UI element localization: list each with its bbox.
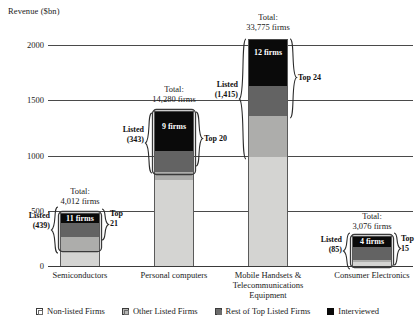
segment-interviewed xyxy=(248,39,288,86)
mobile-handsets-listed-brace xyxy=(238,38,247,160)
x-label-consumer-electronics: Consumer Electronics xyxy=(314,270,415,280)
legend-swatch-rest-of-top-listed-icon xyxy=(215,308,222,315)
consumer-electronics-listed-label: Listed (85) xyxy=(296,235,342,254)
segment-rest-of-top-listed xyxy=(248,86,288,116)
segment-other-listed xyxy=(248,116,288,157)
mobile-handsets-total-label: Total: 33,775 firms xyxy=(212,12,324,32)
interviewed-count-label: 12 firms xyxy=(248,48,288,57)
y-tick-1500: 1500 xyxy=(14,95,44,105)
chart-legend: Non-listed Firms Other Listed Firms Rest… xyxy=(0,303,415,319)
legend-label-other-listed: Other Listed Firms xyxy=(133,306,198,316)
gridline-2000 xyxy=(48,45,413,46)
consumer-electronics-top-label: Top 15 xyxy=(401,234,415,253)
segment-non-listed xyxy=(154,180,194,266)
chart-container: Revenue ($bn) 2000 1500 1000 500 0 11 fi… xyxy=(0,0,415,325)
consumer-electronics-total-label: Total: 3,076 firms xyxy=(330,211,414,231)
consumer-electronics-listed-brace xyxy=(342,232,351,270)
gridline-1000 xyxy=(48,156,413,157)
y-tick-2000: 2000 xyxy=(14,40,44,50)
mobile-handsets-top-label: Top 24 xyxy=(298,73,338,83)
personal-computers-listed-label: Listed (343) xyxy=(96,125,144,144)
legend-swatch-interviewed-icon xyxy=(327,308,334,315)
personal-computers-listed-outline xyxy=(151,108,197,176)
bar-mobile-handsets: 12 firms xyxy=(248,39,288,266)
semiconductors-listed-label: Listed (439) xyxy=(2,211,50,230)
y-axis-title: Revenue ($bn) xyxy=(8,6,60,16)
x-label-mobile-handsets: Mobile Handsets & Telecommunications Equ… xyxy=(210,270,326,300)
y-tick-1000: 1000 xyxy=(14,151,44,161)
mobile-handsets-listed-label: Listed (1,415) xyxy=(188,80,238,99)
legend-item-other-listed: Other Listed Firms xyxy=(122,306,198,316)
semiconductors-top-brace xyxy=(101,208,110,241)
legend-label-non-listed: Non-listed Firms xyxy=(47,306,105,316)
personal-computers-top-label: Top 20 xyxy=(204,134,240,144)
personal-computers-listed-brace xyxy=(144,112,153,174)
gridline-1500 xyxy=(48,100,413,101)
mobile-handsets-top-brace xyxy=(289,38,298,119)
semiconductors-top-label: Top 21 xyxy=(110,209,140,228)
legend-label-interviewed: Interviewed xyxy=(338,306,379,316)
legend-item-non-listed: Non-listed Firms xyxy=(36,306,105,316)
personal-computers-top-brace xyxy=(195,111,204,167)
semiconductors-listed-outline xyxy=(57,210,103,253)
legend-item-interviewed: Interviewed xyxy=(327,306,379,316)
segment-non-listed xyxy=(248,157,288,266)
semiconductors-total-label: Total: 4,012 firms xyxy=(32,186,128,206)
legend-swatch-other-listed-icon xyxy=(122,308,129,315)
legend-item-rest-of-top-listed: Rest of Top Listed Firms xyxy=(215,306,311,316)
legend-label-rest-of-top-listed: Rest of Top Listed Firms xyxy=(226,306,311,316)
consumer-electronics-listed-outline xyxy=(349,233,395,269)
legend-swatch-non-listed-icon xyxy=(36,308,43,315)
semiconductors-listed-brace xyxy=(50,206,59,254)
